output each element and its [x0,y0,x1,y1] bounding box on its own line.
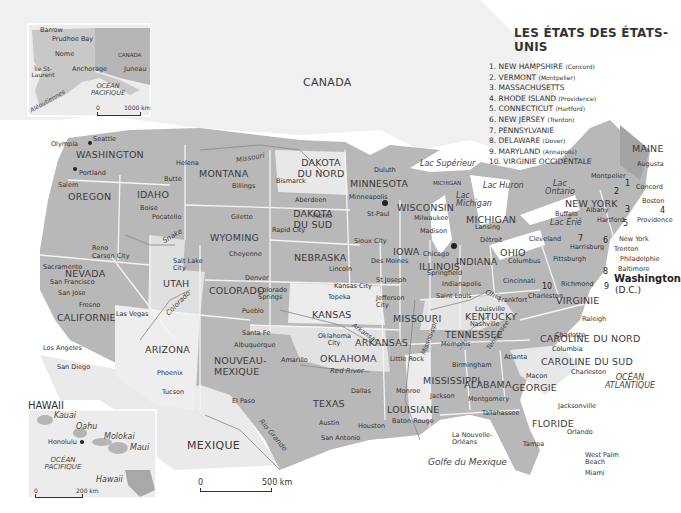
label-las-vegas: Las Vegas [116,311,149,318]
label-nome: Nome [55,51,74,58]
label-charleston-wv: Charleston [528,293,563,300]
map-num-1: 1 [625,180,630,188]
label-salt-lake-city: Salt Lake City [173,258,203,272]
legend-item: 5. CONNECTICUT (Hartford) [489,104,669,115]
label-arkansas: ARKANSAS [355,338,408,348]
label-colorado: COLORADO [209,286,265,296]
label-duluth: Duluth [374,167,396,174]
label-iowa: IOWA [393,247,419,257]
label-raleigh: Raleigh [582,316,606,323]
label-richmond: Richmond [561,281,594,288]
label-kansas: KANSAS [312,310,352,320]
alaska-scale-zero: 0 [96,104,100,111]
label-la-nouvelle-orleans: La Nouvelle-Orléans [452,432,497,446]
label-jacksonville: Jacksonville [558,403,596,410]
label-oregon: OREGON [68,192,111,202]
label-austin: Austin [319,420,339,427]
label-tucson: Tucson [162,389,184,396]
label-orlando: Orlando [567,429,593,436]
alaska-scale-max: 1000 km [124,104,151,111]
label-maui: Maui [130,444,149,452]
label-seattle: Seattle [93,136,116,143]
label-cheyenne: Cheyenne [229,251,262,258]
label-barrow: Barrow [40,27,63,34]
legend-item: 6. NEW JERSEY (Trenton) [489,115,669,126]
label-minnesota: MINNESOTA [350,179,408,189]
city-dot [451,243,457,249]
label-san-diego: San Diego [57,364,90,371]
label-golfe-mexique: Golfe du Mexique [428,458,507,467]
hawaii-inset-title: HAWAII [28,400,64,411]
main-scale-bar [200,488,272,492]
label-phoenix: Phoenix [157,370,183,377]
label-los-angeles: Los Angeles [43,345,82,352]
label-alaska-canada: CANADA [118,53,141,59]
label-montgomery: Montgomery [468,396,509,403]
label-tampa: Tampa [523,441,544,448]
label-dc: (D.C.) [615,286,641,295]
label-indiana: INDIANA [456,257,498,267]
label-pierre: Pierre [313,213,332,220]
label-augusta: Augusta [637,161,664,168]
map-num-2: 2 [614,188,619,196]
label-albuquerque: Albuquerque [234,342,276,349]
main-scale-zero: 0 [198,478,203,487]
map-num-8: 8 [603,268,608,276]
label-cleveland: Cleveland [529,236,561,243]
label-concord: Concord [636,184,663,191]
label-hawaii-island: Hawaii [96,476,123,484]
label-kauai: Kauai [54,412,76,420]
label-butte: Butte [164,176,182,183]
label-montpelier: Montpelier [591,173,626,180]
label-portland: Portland [79,170,106,177]
label-miami: Miami [585,470,605,477]
label-chicago: Chicago [423,251,449,258]
label-idaho: IDAHO [137,190,169,200]
label-alaska-ocean: OCÉAN PACIFIQUE [88,83,128,96]
map-num-7: 7 [578,235,583,243]
label-charleston: Charleston [571,369,606,376]
label-river-red: Red River [330,368,364,375]
label-arizona: ARIZONA [145,345,190,355]
label-newyork-city: New York [619,236,649,243]
label-harrisburg: Harrisburg [570,244,604,251]
label-charlotte: Charlotte [555,332,585,339]
label-amarillo: Amarillo [281,357,308,364]
label-san-jose: San Jose [58,290,86,297]
honolulu-dot [80,440,84,444]
label-californie: CALIFORNIE [57,313,116,323]
map-num-10: 10 [542,283,552,291]
label-sioux-city: Sioux City [354,238,387,245]
label-atlanta: Atlanta [504,354,527,361]
label-memphis: Memphis [441,341,470,348]
label-ocean-atlantique: OCÉAN ATLANTIQUE [600,374,660,390]
label-macon: Macon [526,373,547,380]
label-san-antonio: San Antonio [321,435,360,442]
label-san-francisco: San Francisco [50,279,95,286]
label-prudhoe-bay: Prudhoe Bay [52,36,93,43]
label-louisiane: LOUISIANE [387,405,439,415]
map-num-9: 9 [604,283,609,291]
label-frankfort: Frankfort [498,297,527,304]
label-little-rock: Little Rock [390,356,424,363]
label-dallas: Dallas [351,388,371,395]
label-gillette: Gilette [231,214,253,221]
label-baton-rouge: Baton Rouge [392,418,434,425]
label-mexique: MEXIQUE [187,440,240,451]
label-canada: CANADA [303,77,352,88]
label-maine: MAINE [632,144,664,154]
label-alabama: ALABAMA [464,380,512,390]
label-tallahassee: Tallahassee [482,410,519,417]
label-michigan-up: MICHIGAN [433,181,461,187]
label-denver: Denver [245,275,269,282]
label-caroline-sud: CAROLINE DU SUD [541,357,633,367]
legend-item: 7. PENNSYLVANIE [489,126,669,137]
city-dot [88,141,92,145]
hawaii-scale-bar [35,494,83,498]
label-anchorage: Anchorage [72,66,107,73]
label-lincoln: Lincoln [329,266,352,273]
main-scale-max: 500 km [262,478,292,487]
label-st-joseph: St Joseph [376,277,406,284]
label-monroe: Monroe [396,388,420,395]
city-dot [73,167,77,171]
